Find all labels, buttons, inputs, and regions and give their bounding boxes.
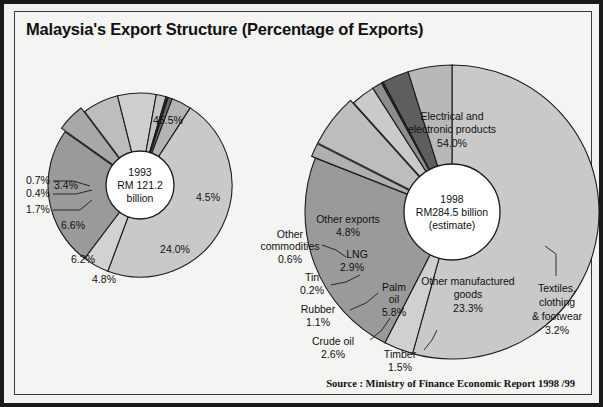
- outer-frame: [0, 0, 603, 407]
- chart-figure: 1993RM 121.2billion45.5%4.5%24.0%4.8%6.2…: [0, 0, 603, 407]
